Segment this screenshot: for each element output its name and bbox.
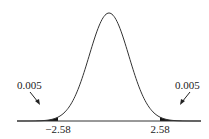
right-critical-value: 2.58 — [150, 123, 170, 135]
left-tail-label: 0.005 — [17, 79, 42, 91]
normal-curve — [17, 13, 201, 121]
normal-curve-chart: 0.005 0.005 −2.58 2.58 — [0, 0, 209, 139]
right-tail-label: 0.005 — [175, 79, 200, 91]
left-critical-value: −2.58 — [45, 123, 71, 135]
